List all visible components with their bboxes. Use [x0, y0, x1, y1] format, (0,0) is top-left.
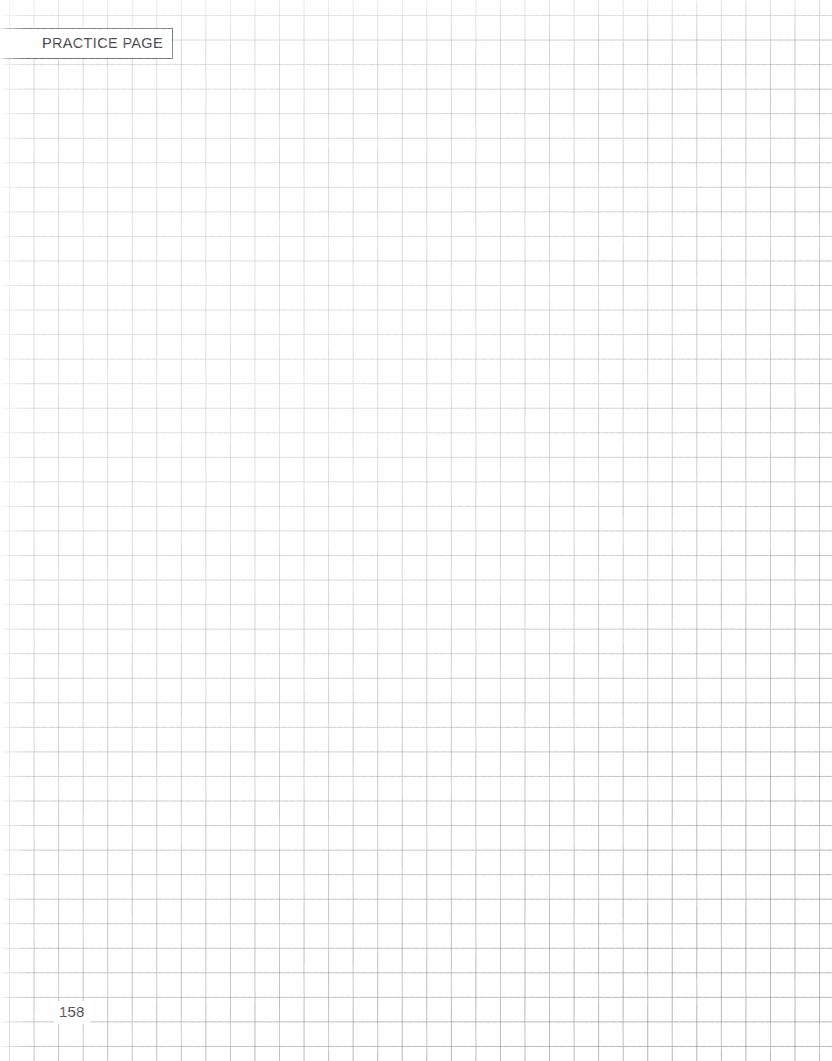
practice-page-header-label: PRACTICE PAGE [42, 36, 163, 51]
practice-page: PRACTICE PAGE 158 [0, 0, 832, 1061]
page-number: 158 [54, 1001, 90, 1024]
work-area[interactable] [0, 60, 832, 1000]
practice-page-header-tab: PRACTICE PAGE [0, 28, 173, 59]
